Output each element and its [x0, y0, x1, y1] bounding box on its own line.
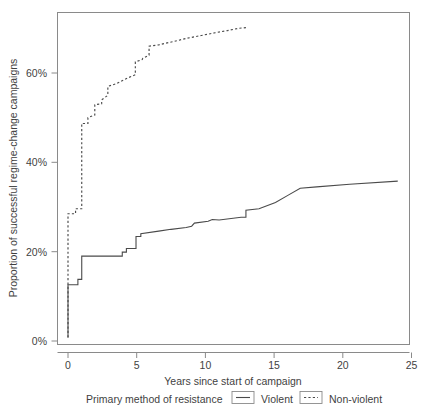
x-tick-label-25: 25: [406, 359, 418, 371]
chart-figure: 60% 40% 20% 0% 0 5 10 15 20 25 Years sin…: [0, 0, 425, 414]
series-line-violent: [68, 181, 398, 337]
x-tick-label-0: 0: [65, 359, 71, 371]
legend-label-violent[interactable]: Violent: [261, 393, 293, 405]
y-tick-label-60: 60%: [26, 67, 47, 79]
plot-frame: [58, 13, 410, 345]
legend-title: Primary method of resistance: [86, 393, 223, 405]
y-tick-label-40: 40%: [26, 156, 47, 168]
y-tick-label-0: 0%: [32, 335, 47, 347]
chart-legend: Primary method of resistance Violent Non…: [86, 392, 382, 406]
y-tick-label-20: 20%: [26, 246, 47, 258]
y-axis: 60% 40% 20% 0%: [26, 13, 58, 348]
legend-label-non-violent[interactable]: Non-violent: [329, 393, 382, 405]
x-axis-title: Years since start of campaign: [164, 375, 302, 387]
x-tick-label-5: 5: [134, 359, 140, 371]
y-axis-title: Proportion of successful regime-change c…: [7, 59, 19, 298]
x-tick-label-15: 15: [268, 359, 280, 371]
series-line-non-violent: [68, 27, 248, 337]
x-tick-label-20: 20: [337, 359, 349, 371]
x-axis: 0 5 10 15 20 25: [58, 353, 418, 372]
survival-curve-chart: 60% 40% 20% 0% 0 5 10 15 20 25 Years sin…: [0, 0, 425, 414]
x-tick-label-10: 10: [200, 359, 212, 371]
legend-key-box-non-violent[interactable]: [300, 392, 322, 404]
